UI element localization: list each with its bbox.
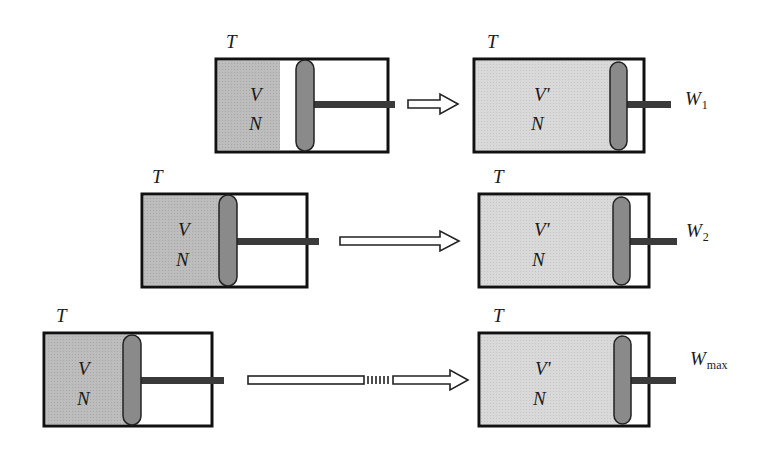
particles-label: N xyxy=(531,114,544,133)
piston xyxy=(219,195,237,286)
volume-label: V' xyxy=(535,359,551,378)
row2-arrow xyxy=(340,231,459,251)
temperature-label: T xyxy=(226,32,237,51)
piston xyxy=(123,335,141,425)
particles-label: N xyxy=(533,389,546,408)
volume-label: V xyxy=(178,220,190,239)
piston-rod xyxy=(305,101,395,108)
work-label: W2 xyxy=(686,221,709,240)
row1-initial-cylinder xyxy=(216,59,395,152)
temperature-label: T xyxy=(493,167,504,186)
piston-rod xyxy=(629,377,676,384)
row3-final-cylinder xyxy=(479,333,676,426)
temperature-label: T xyxy=(152,167,163,186)
row3-initial-cylinder xyxy=(44,333,224,426)
volume-label: V xyxy=(250,85,262,104)
particles-label: N xyxy=(532,250,545,269)
volume-label: V' xyxy=(534,85,550,104)
row1-arrow xyxy=(408,94,458,114)
particles-label: N xyxy=(176,250,189,269)
volume-label: V' xyxy=(534,220,550,239)
temperature-label: T xyxy=(56,306,67,325)
piston xyxy=(613,197,630,285)
piston-rod xyxy=(135,377,224,384)
work-label: Wmax xyxy=(690,349,728,368)
work-label: W1 xyxy=(685,89,708,108)
volume-label: V xyxy=(78,359,90,378)
piston xyxy=(610,62,627,150)
piston-rod xyxy=(625,101,671,108)
piston xyxy=(296,60,314,151)
piston-rod xyxy=(230,238,319,245)
row3-broken-arrow xyxy=(248,370,468,390)
temperature-label: T xyxy=(487,32,498,51)
particles-label: N xyxy=(249,114,262,133)
piston-diagram xyxy=(0,0,768,453)
row1-final-cylinder xyxy=(474,59,671,152)
piston-rod xyxy=(628,238,677,245)
row2-initial-cylinder xyxy=(142,194,319,287)
piston xyxy=(614,336,631,424)
row2-final-cylinder xyxy=(479,194,677,287)
temperature-label: T xyxy=(493,306,504,325)
particles-label: N xyxy=(77,389,90,408)
